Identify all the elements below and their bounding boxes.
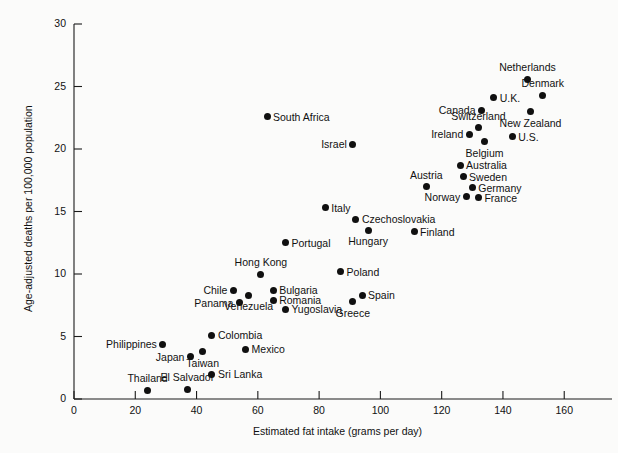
data-point-label: Poland [347,266,380,277]
x-tick-label: 0 [54,404,94,416]
x-tick-label: 60 [238,404,278,416]
data-point-label: Czechoslovakia [362,214,436,225]
data-point [144,387,151,394]
scatter-chart: 051015202530 020406080100120140160 Nethe… [0,0,618,453]
data-point [264,113,271,120]
data-point [270,297,277,304]
x-tick-label: 120 [422,404,462,416]
data-point [322,204,329,211]
data-point [184,386,191,393]
x-tick-label: 40 [177,404,217,416]
y-tick-label: 0 [34,392,66,404]
data-point [257,271,264,278]
data-point [466,131,473,138]
data-point [539,92,546,99]
y-tick-label: 15 [34,205,66,217]
data-point-label: Denmark [521,78,564,89]
y-tick-label: 10 [34,267,66,279]
data-point-label: Colombia [218,330,262,341]
data-point-label: U.S. [518,131,538,142]
y-axis-title: Age-adjusted deaths per 100,000 populati… [22,105,34,312]
data-point [187,353,194,360]
data-point-label: Netherlands [499,62,556,73]
data-point-label: El Salvador [161,372,215,383]
data-point-label: Mexico [252,344,285,355]
data-point [230,287,237,294]
data-point [245,292,252,299]
data-point-label: U.K. [500,92,520,103]
data-point [481,138,488,145]
data-point-label: Yugoslavia [291,304,342,315]
data-point [365,227,372,234]
data-point [242,346,249,353]
y-tick-label: 5 [34,330,66,342]
data-point-label: Italy [331,202,350,213]
data-point [349,141,356,148]
x-axis-title: Estimated fat intake (grams per day) [188,425,488,437]
data-point-label: Israel [321,139,347,150]
data-point [159,341,166,348]
plot-area: 051015202530 020406080100120140160 Nethe… [0,0,618,453]
data-point [359,292,366,299]
data-point-label: Hungary [348,236,388,247]
data-point-label: South Africa [273,111,330,122]
data-point [337,268,344,275]
data-point [282,306,289,313]
x-tick-label: 160 [544,404,584,416]
y-tick-label: 25 [34,80,66,92]
data-point-label: Panama [194,297,233,308]
data-point [509,133,516,140]
y-tick-label: 30 [34,17,66,29]
data-point-label: Ireland [431,129,463,140]
y-tick-label: 20 [34,142,66,154]
data-point [411,228,418,235]
data-point-label: Greece [336,308,370,319]
data-point-label: Portugal [291,237,330,248]
data-point-label: Chile [203,285,227,296]
data-point-label: Norway [425,191,461,202]
data-point [457,162,464,169]
data-point-label: Japan [156,351,185,362]
data-point [527,108,534,115]
data-point-label: France [484,192,517,203]
data-point-label: Sri Lanka [218,369,262,380]
data-point [270,287,277,294]
data-point-label: Philippines [106,339,157,350]
data-point-label: Spain [368,290,395,301]
data-point [423,183,430,190]
x-tick-label: 80 [299,404,339,416]
data-point [352,216,359,223]
data-point-label: Finland [420,226,454,237]
data-point-label: Austria [410,170,443,181]
data-point [460,173,467,180]
data-point-label: New Zealand [500,118,562,129]
x-tick-label: 100 [360,404,400,416]
x-tick-label: 20 [115,404,155,416]
data-point [463,193,470,200]
data-point-label: Belgium [466,148,504,159]
x-tick-label: 140 [483,404,523,416]
data-point-label: Hong Kong [235,257,288,268]
data-point-label: Switzerland [451,111,505,122]
